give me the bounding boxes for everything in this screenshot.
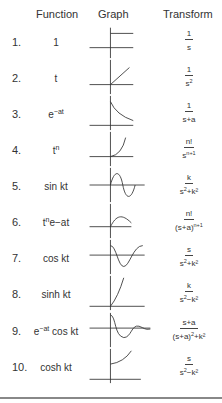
table-row: 6. tne−at n!(s+a)n+1 [0,202,222,240]
row-number: 8. [12,288,21,300]
table-row: 2. t 1s2 [0,58,222,96]
transform-expression: 1s+a [160,101,218,125]
table-row: 10. cosh kt ss2−k² [0,347,222,385]
table-row: 5. sin kt ks2+k² [0,166,222,204]
row-number: 6. [12,216,21,228]
row-number: 10. [12,361,27,373]
function-expression: tne−at [30,216,82,228]
table-row: 8. sinh kt ks2−k² [0,274,222,312]
transform-expression: s+a(s+a)2+k² [160,318,218,342]
row-number: 1. [12,36,21,48]
function-expression: 1 [30,36,82,48]
row-number: 9. [12,325,21,337]
table-row: 7. cos kt ss2+k² [0,238,222,276]
row-number: 2. [12,72,21,84]
function-graph [84,94,154,132]
row-number: 3. [12,108,21,120]
function-expression: tn [30,144,82,156]
table-row: 9. e−at cos kt s+a(s+a)2+k² [0,311,222,349]
function-graph [84,130,154,168]
transform-expression: ss2+k² [160,245,218,269]
transform-expression: ks2+k² [160,173,218,197]
table-row: 4. tn n!sn+1 [0,130,222,168]
function-expression: sinh kt [30,288,82,300]
function-graph [84,166,154,204]
table-row: 1. 1 1s [0,22,222,60]
function-graph [84,274,154,312]
function-graph [84,202,154,240]
function-graph [84,238,154,276]
transform-expression: n!(s+a)n+1 [160,209,218,233]
header-function: Function [36,8,78,20]
function-expression: t [30,72,82,84]
row-number: 4. [12,144,21,156]
table-row: 3. e−at 1s+a [0,94,222,132]
function-graph [84,347,154,385]
transform-expression: n!sn+1 [160,137,218,161]
function-expression: cosh kt [30,361,82,373]
transform-expression: ks2−k² [160,281,218,305]
function-expression: e−at [30,108,82,120]
bottom-rule [0,397,222,399]
transform-expression: ss2−k² [160,354,218,378]
transform-expression: 1s2 [160,65,218,89]
row-number: 7. [12,252,21,264]
function-graph [84,22,154,60]
function-graph [84,58,154,96]
function-expression: e−at cos kt [30,325,82,337]
transform-expression: 1s [160,29,218,53]
header-graph: Graph [98,8,129,20]
function-expression: sin kt [30,180,82,192]
row-number: 5. [12,180,21,192]
function-expression: cos kt [30,252,82,264]
header-transform: Transform [163,8,213,20]
function-graph [84,311,154,349]
